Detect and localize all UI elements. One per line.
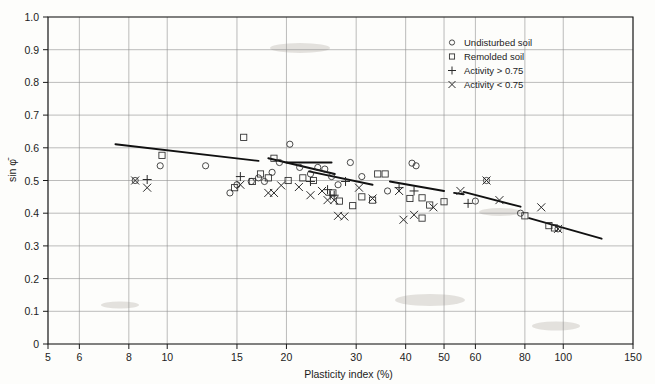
legend-label-cross: Activity < 0.75 (464, 79, 523, 90)
legend: Undisturbed soilRemolded soilActivity > … (448, 37, 532, 90)
marker-square (419, 215, 425, 221)
y-tick-label: 0.9 (24, 44, 39, 56)
marker-circle (449, 40, 454, 45)
marker-circle (269, 169, 275, 175)
y-tick-label: 0.4 (24, 207, 39, 219)
trend-line-segment (529, 218, 602, 239)
x-tick-label: 10 (161, 351, 173, 363)
smudge (532, 322, 580, 331)
marker-circle (157, 163, 163, 169)
legend-label-circle: Undisturbed soil (464, 37, 532, 48)
marker-circle (335, 182, 341, 188)
x-tick-label: 5 (45, 351, 51, 363)
data-points (131, 134, 562, 233)
axis-ticks: 568101520304050608010015000.10.20.30.40.… (24, 11, 642, 363)
y-tick-label: 0.5 (24, 175, 39, 187)
series-plus (143, 172, 473, 208)
x-tick-label: 6 (76, 351, 82, 363)
marker-square (265, 175, 271, 181)
marker-square (359, 194, 365, 200)
marker-square (382, 171, 388, 177)
scatter-plot-canvas: 568101520304050608010015000.10.20.30.40.… (0, 0, 655, 384)
y-tick-label: 1.0 (24, 11, 39, 23)
trend-lines (115, 144, 601, 239)
marker-square (375, 171, 381, 177)
y-tick-label: 0.7 (24, 109, 39, 121)
marker-circle (287, 141, 293, 147)
marker-circle (384, 188, 390, 194)
marker-circle (255, 175, 261, 181)
y-tick-label: 0.1 (24, 305, 39, 317)
y-axis-title: sin φ̄ (6, 157, 18, 182)
x-tick-label: 60 (470, 351, 482, 363)
marker-square (257, 171, 263, 177)
marker-circle (203, 163, 209, 169)
x-tick-label: 100 (554, 351, 572, 363)
smudge (101, 302, 139, 309)
marker-circle (227, 190, 233, 196)
marker-square (427, 202, 433, 208)
x-tick-label: 40 (400, 351, 412, 363)
x-tick-label: 80 (519, 351, 531, 363)
marker-circle (261, 178, 267, 184)
marker-square (300, 175, 306, 181)
y-tick-label: 0 (33, 338, 39, 350)
y-tick-label: 0.2 (24, 273, 39, 285)
marker-square (350, 203, 356, 209)
y-tick-label: 0.3 (24, 240, 39, 252)
x-tick-label: 30 (350, 351, 362, 363)
x-tick-label: 50 (438, 351, 450, 363)
marker-square (241, 134, 247, 140)
marker-square (419, 195, 425, 201)
legend-label-plus: Activity > 0.75 (464, 65, 523, 76)
smudge (270, 43, 330, 53)
legend-label-square: Remolded soil (464, 51, 524, 62)
marker-circle (347, 159, 353, 165)
series-cross (131, 177, 562, 233)
chart-figure: 568101520304050608010015000.10.20.30.40.… (0, 0, 655, 384)
x-tick-label: 8 (126, 351, 132, 363)
y-tick-label: 0.6 (24, 142, 39, 154)
trend-line-segment (464, 192, 521, 207)
x-tick-label: 20 (281, 351, 293, 363)
marker-square (159, 152, 165, 158)
marker-circle (359, 173, 365, 179)
x-tick-label: 150 (624, 351, 642, 363)
y-tick-label: 0.8 (24, 76, 39, 88)
x-tick-label: 15 (231, 351, 243, 363)
marker-square (407, 195, 413, 201)
x-axis-title: Plasticity index (%) (304, 368, 393, 380)
marker-square (449, 54, 454, 59)
smudge (479, 208, 521, 216)
